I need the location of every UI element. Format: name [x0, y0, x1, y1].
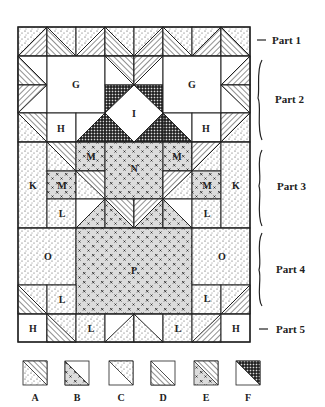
label-p: P — [131, 265, 137, 276]
label-h-part5-left: H — [29, 323, 37, 334]
part2-rows — [18, 56, 250, 142]
part4-label: Part 4 — [276, 263, 306, 275]
part1-row — [18, 27, 250, 56]
label-l-part5-left: L — [88, 323, 95, 334]
label-h-part5-right: H — [232, 323, 240, 334]
label-o-right: O — [218, 251, 226, 262]
label-l-part4-left: L — [59, 294, 66, 305]
label-h-right: H — [202, 123, 210, 134]
legend-a-label: A — [31, 392, 39, 403]
quilt-grid — [18, 27, 250, 342]
label-l-part3-right: L — [204, 208, 211, 219]
part3-label: Part 3 — [277, 180, 307, 192]
label-g-right: G — [188, 79, 196, 90]
label-l-part4-right: L — [204, 293, 211, 304]
label-o-left: O — [44, 251, 52, 262]
legend-c-swatch — [109, 361, 133, 385]
part2-label: Part 2 — [275, 93, 305, 105]
legend-b-swatch — [65, 361, 89, 385]
part1-label: Part 1 — [272, 34, 301, 46]
label-k-left: K — [29, 180, 37, 191]
legend-c-label: C — [117, 392, 124, 403]
part3-rows — [18, 142, 250, 228]
legend-d-label: D — [159, 392, 166, 403]
legend-d-swatch — [151, 361, 175, 385]
label-g-left: G — [72, 79, 80, 90]
label-m-top-right: M — [172, 151, 182, 162]
part3-brace — [259, 150, 262, 226]
legend-e-label: E — [203, 392, 210, 403]
legend-f-label: F — [245, 392, 251, 403]
label-n: N — [130, 163, 138, 174]
label-h-left: H — [57, 123, 65, 134]
label-i: I — [132, 108, 136, 119]
legend-b-label: B — [74, 392, 81, 403]
part5-row — [18, 314, 250, 342]
part5-label: Part 5 — [276, 323, 306, 335]
label-m-mid-left: M — [57, 180, 67, 191]
legend-f-swatch — [236, 361, 260, 385]
part4-brace — [259, 233, 262, 306]
label-m-top-left: M — [86, 151, 96, 162]
label-l-part3-left: L — [59, 208, 66, 219]
part2-brace — [258, 60, 262, 140]
label-m-mid-right: M — [202, 180, 212, 191]
legend-a-swatch — [23, 361, 47, 385]
legend — [23, 361, 260, 385]
quilt-diagram: G G H H I K K M M M M N L L O O P L L H … — [0, 0, 325, 407]
label-k-right: K — [232, 180, 240, 191]
part-markers — [257, 40, 268, 329]
legend-e-swatch — [194, 361, 218, 385]
label-l-part5-right: L — [175, 323, 182, 334]
